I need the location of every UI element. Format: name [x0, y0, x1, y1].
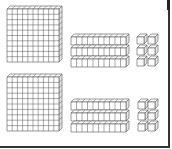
- blocks-canvas: [0, 0, 172, 149]
- frame-right-border-top: [167, 0, 170, 10]
- bottom-group-hundred-flat: [7, 74, 62, 131]
- bottom-group-unit-cube: [148, 110, 158, 120]
- bottom-group-unit-cube: [138, 110, 148, 120]
- bottom-group-unit-cube: [148, 99, 158, 109]
- top-group-unit-cube: [148, 56, 158, 66]
- top-group-ten-rod: [71, 56, 129, 67]
- bottom-group-ten-rod: [71, 121, 129, 132]
- bottom-group-unit-cube: [138, 99, 148, 109]
- bottom-group-unit-cube: [138, 121, 148, 131]
- bottom-group-ten-rod: [71, 99, 129, 110]
- top-group-unit-cube: [148, 34, 158, 44]
- top-group-unit-cube: [137, 45, 147, 55]
- top-group-hundred-flat: [7, 6, 62, 62]
- frame-right-border: [168, 0, 170, 148]
- top-group-unit-cube: [137, 34, 147, 44]
- top-group-ten-rod: [71, 34, 129, 45]
- top-group-unit-cube: [148, 45, 158, 55]
- top-group-unit-cube: [137, 56, 147, 66]
- bottom-group-ten-rod: [71, 110, 129, 121]
- top-group-ten-rod: [71, 45, 129, 56]
- frame-bottom-border: [0, 146, 170, 148]
- bottom-group-unit-cube: [148, 121, 158, 131]
